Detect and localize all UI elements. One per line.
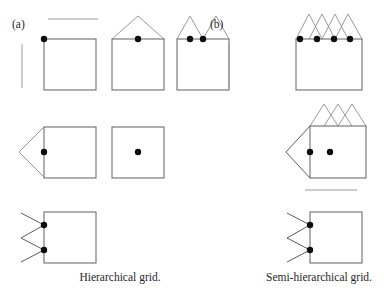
grid-node [187,36,193,42]
grid-node [297,36,303,42]
grid-node [200,36,206,42]
grid-node [307,149,313,155]
grid-node [41,36,47,42]
caption-hierarchical-grid: Hierarchical grid. [79,271,160,284]
grid-node [135,36,141,42]
grid-node [41,222,47,228]
hierarchical-grid-figure: (a) [0,0,389,297]
grid-node [331,36,337,42]
grid-node [41,149,47,155]
grid-node [135,149,141,155]
panel-b-label: (b) [210,18,224,31]
grid-node [307,222,313,228]
grid-node [41,247,47,253]
grid-node [307,247,313,253]
grid-node [314,36,320,42]
grid-node [347,36,353,42]
grid-node [327,149,333,155]
figure-background [0,0,389,297]
caption-semi-hierarchical-grid: Semi-hierarchical grid. [266,271,372,284]
panel-a-label: (a) [12,18,25,31]
